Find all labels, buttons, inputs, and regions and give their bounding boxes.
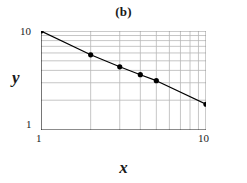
x-axis-title: x — [0, 158, 247, 178]
y-axis-title: y — [12, 68, 20, 88]
plot-area — [41, 31, 206, 130]
chart-title: (b) — [0, 4, 247, 20]
data-series-line — [41, 31, 206, 104]
x-axis-tick-label-left: 1 — [36, 132, 42, 144]
vertical-minor-gridlines — [91, 31, 199, 130]
y-axis-tick-label-top: 10 — [20, 25, 31, 37]
data-point-marker — [154, 78, 159, 83]
y-axis-tick-label-bottom: 1 — [26, 118, 32, 130]
plot-svg — [41, 31, 206, 130]
series-polyline — [41, 31, 206, 104]
data-point-marker — [203, 102, 206, 107]
data-point-marker — [41, 31, 44, 34]
x-axis-tick-label-right: 10 — [198, 132, 209, 144]
data-point-marker — [88, 52, 93, 57]
plot-frame — [41, 31, 206, 130]
log-log-chart-figure: (b) y x 10 1 1 10 — [0, 0, 247, 183]
data-point-marker — [138, 72, 143, 77]
data-point-marker — [117, 64, 122, 69]
